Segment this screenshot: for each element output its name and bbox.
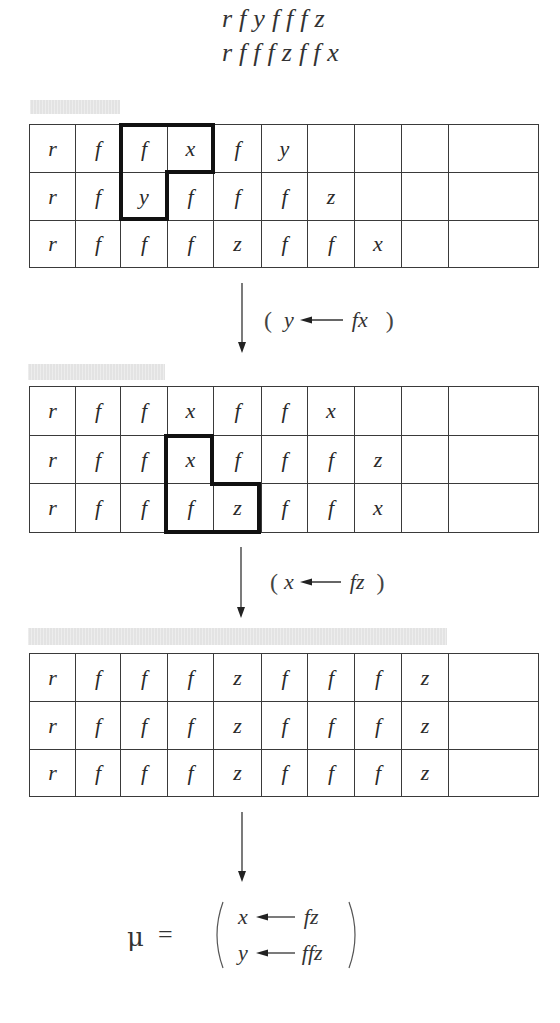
table-cell: f: [262, 436, 308, 484]
table-cell: f: [121, 125, 168, 173]
table-cell: f: [121, 654, 168, 702]
table-cell: f: [355, 702, 402, 750]
header-word-2: rfffzffx: [222, 38, 346, 68]
down-arrow-icon: [236, 282, 248, 354]
header-word-1: rfyfffz: [222, 4, 332, 34]
table-cell: [449, 702, 539, 750]
table-cell: f: [168, 173, 214, 221]
table-cell: [449, 173, 539, 221]
table-cell: [355, 125, 402, 173]
table-cell: f: [76, 436, 121, 484]
table-cell: f: [76, 125, 121, 173]
table-cell: f: [308, 221, 355, 268]
table-cell: r: [30, 484, 76, 533]
table-cell: r: [30, 125, 76, 173]
transition-label-1: ( y fx ): [264, 305, 394, 335]
table-cell: [449, 387, 539, 436]
table-cell: z: [214, 221, 262, 268]
table-cell: x: [355, 221, 402, 268]
substitution-row-1: x fz: [238, 903, 318, 931]
table-cell: y: [121, 173, 168, 221]
table-cell: f: [76, 750, 121, 797]
paren-open: (: [270, 569, 278, 596]
table-cell: f: [121, 387, 168, 436]
transition-label-2: ( x fz ): [270, 567, 384, 597]
left-paren: [210, 900, 226, 970]
table-cell: z: [402, 702, 449, 750]
left-arrow-icon: [256, 947, 296, 959]
table-cell: z: [214, 750, 262, 797]
grid-table-3: r f f f z f f f z r f f f z f f f z r f …: [29, 653, 539, 797]
table-cell: f: [168, 484, 214, 533]
table-cell: r: [30, 387, 76, 436]
table-cell: z: [214, 484, 262, 533]
paren-close: ): [376, 569, 384, 596]
table-cell: z: [214, 702, 262, 750]
table-cell: f: [262, 484, 308, 533]
transition-term: fx: [352, 307, 368, 333]
table-cell: f: [121, 750, 168, 797]
table-cell: f: [121, 484, 168, 533]
table-cell: f: [308, 484, 355, 533]
table-cell: r: [30, 436, 76, 484]
table-cell: f: [214, 387, 262, 436]
table-cell: f: [308, 702, 355, 750]
equals-sign: =: [158, 920, 173, 950]
table-cell: r: [30, 750, 76, 797]
table-cell: r: [30, 654, 76, 702]
paren-close: ): [386, 307, 394, 334]
table-cell: [402, 436, 449, 484]
right-paren: [346, 900, 362, 970]
table-cell: f: [76, 387, 121, 436]
table-cell: [449, 654, 539, 702]
table-cell: f: [121, 702, 168, 750]
table-cell: [449, 750, 539, 797]
left-arrow-icon: [300, 314, 344, 326]
table-cell: z: [402, 654, 449, 702]
table-cell: f: [355, 654, 402, 702]
table-cell: f: [214, 173, 262, 221]
left-arrow-icon: [300, 576, 342, 588]
down-arrow-icon: [235, 546, 247, 620]
table-cell: x: [168, 125, 214, 173]
table-cell: f: [168, 221, 214, 268]
table-cell: z: [214, 654, 262, 702]
table-cell: r: [30, 702, 76, 750]
mu-symbol: μ: [127, 922, 144, 952]
table-cell: x: [355, 484, 402, 533]
gray-bar-1: [30, 100, 120, 114]
subst-var: x: [238, 904, 248, 930]
table-cell: f: [262, 221, 308, 268]
table-cell: [449, 484, 539, 533]
table-cell: z: [402, 750, 449, 797]
table-cell: f: [76, 484, 121, 533]
table-cell: [402, 387, 449, 436]
table-cell: f: [262, 702, 308, 750]
table-cell: [449, 125, 539, 173]
subst-var: y: [238, 940, 248, 966]
table-cell: [402, 221, 449, 268]
transition-term: fz: [350, 569, 365, 595]
table-cell: [355, 387, 402, 436]
grid-table-1: r f f x f y r f y f f f z r f f f z f f …: [29, 124, 539, 268]
table-cell: f: [121, 436, 168, 484]
table-cell: f: [76, 702, 121, 750]
table-cell: f: [121, 221, 168, 268]
table-cell: y: [262, 125, 308, 173]
table-cell: f: [76, 221, 121, 268]
table-cell: [308, 125, 355, 173]
subst-term: ffz: [302, 940, 323, 966]
table-cell: f: [168, 750, 214, 797]
substitution-row-2: y ffz: [238, 939, 323, 967]
table-cell: [402, 484, 449, 533]
table-cell: f: [76, 173, 121, 221]
table-cell: f: [262, 173, 308, 221]
gray-bar-2: [28, 364, 165, 380]
table-cell: [402, 125, 449, 173]
table-cell: z: [308, 173, 355, 221]
down-arrow-icon: [236, 811, 248, 884]
gray-bar-3: [28, 628, 447, 645]
table-cell: [449, 221, 539, 268]
table-cell: f: [308, 436, 355, 484]
table-cell: f: [76, 654, 121, 702]
